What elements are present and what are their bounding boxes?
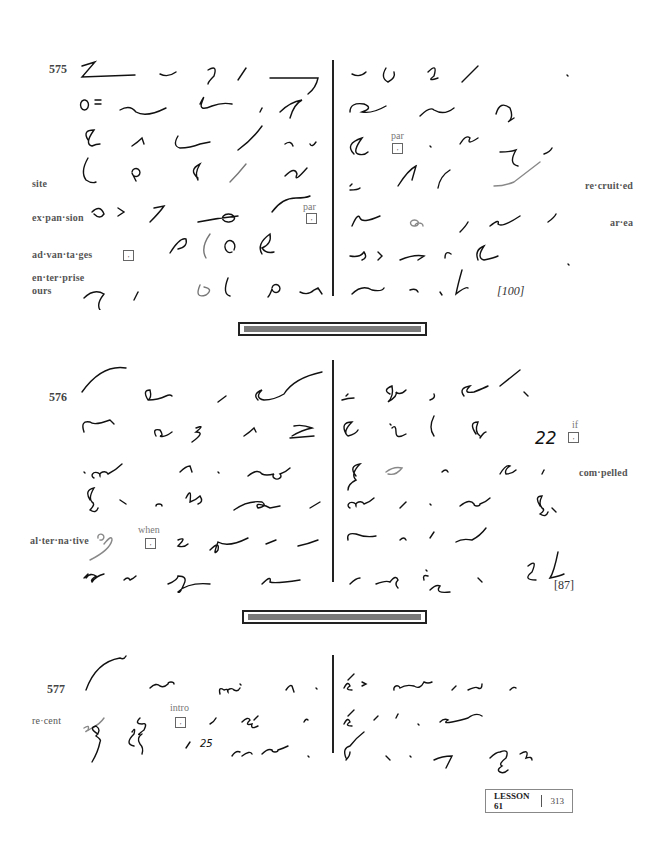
page-footer: LESSON 61 313 — [485, 789, 573, 813]
shorthand-strokes-577 — [0, 0, 670, 820]
footer-divider — [541, 795, 542, 807]
page-number: 313 — [551, 796, 565, 806]
lesson-label: LESSON 61 — [494, 791, 532, 811]
